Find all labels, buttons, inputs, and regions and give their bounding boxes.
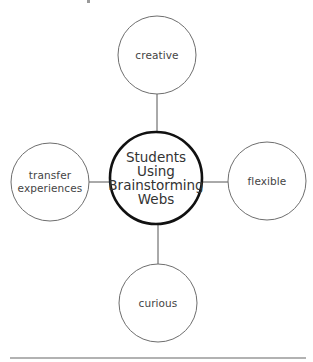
node-creative-label: creative [135,49,178,62]
node-transfer-experiences: transfer experiences [11,143,89,221]
node-creative: creative [118,16,196,94]
node-flexible: flexible [228,142,306,220]
center-label-line-1: Students [108,150,203,164]
center-label-line-3: Brainstorming [108,178,203,192]
center-node: Students Using Brainstorming Webs [110,132,202,224]
brainstorming-web-diagram: Students Using Brainstorming Webs creati… [0,0,313,362]
node-curious-label: curious [139,297,178,310]
center-label-line-2: Using [108,164,203,178]
center-label-line-4: Webs [108,192,203,206]
cropped-text-fragment [87,0,90,3]
node-transfer-label-line-1: transfer [18,169,83,182]
node-curious: curious [119,264,197,342]
node-transfer-label-line-2: experiences [18,182,83,195]
node-flexible-label: flexible [248,175,287,188]
